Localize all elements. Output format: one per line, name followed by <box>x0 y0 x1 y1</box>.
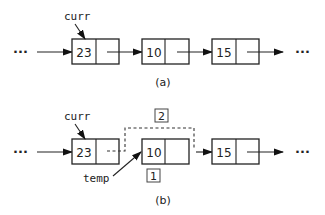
linked-list-diagram: ··· 23 10 15 ··· curr (a) ··· <box>0 0 325 215</box>
ellipsis-right: ··· <box>295 144 310 159</box>
curr-arrow <box>75 124 85 139</box>
ellipsis-left: ··· <box>13 44 28 59</box>
node-10: 10 <box>142 139 189 164</box>
node-value: 23 <box>76 146 91 160</box>
panel-b: ··· 23 10 15 ··· curr temp <box>13 109 310 207</box>
node-23: 23 <box>72 139 119 164</box>
step-label-1: 1 <box>147 169 160 183</box>
svg-text:2: 2 <box>158 110 165 123</box>
panel-a: ··· 23 10 15 ··· curr (a) <box>13 10 310 89</box>
node-value: 10 <box>146 46 161 60</box>
temp-label: temp <box>83 172 110 185</box>
node-value: 10 <box>146 146 161 160</box>
caption-b: (b) <box>155 194 171 207</box>
curr-label: curr <box>64 110 91 123</box>
node-value: 23 <box>76 46 91 60</box>
curr-arrow <box>75 24 85 39</box>
caption-a: (a) <box>155 76 170 89</box>
ellipsis-left: ··· <box>13 144 28 159</box>
step-label-2: 2 <box>155 109 168 123</box>
node-value: 15 <box>216 146 231 160</box>
node-value: 15 <box>216 46 231 60</box>
svg-text:1: 1 <box>150 170 157 183</box>
curr-label: curr <box>64 10 91 23</box>
ellipsis-right: ··· <box>295 44 310 59</box>
